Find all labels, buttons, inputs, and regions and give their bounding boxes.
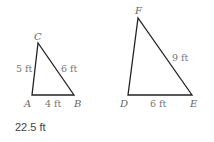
side-de-label: 6 ft — [150, 98, 167, 109]
vertex-f-label: F — [134, 5, 143, 16]
vertex-d-label: D — [119, 98, 128, 109]
answer-text: 22.5 ft — [15, 121, 46, 133]
vertex-e-label: E — [189, 98, 198, 109]
side-fe-label: 9 ft — [172, 52, 189, 63]
side-ab-label: 4 ft — [45, 98, 62, 109]
side-cb-label: 6 ft — [61, 63, 78, 74]
vertex-b-label: B — [73, 98, 81, 109]
vertex-c-label: C — [34, 31, 42, 42]
side-ac-label: 5 ft — [16, 63, 33, 74]
vertex-a-label: A — [23, 98, 31, 109]
